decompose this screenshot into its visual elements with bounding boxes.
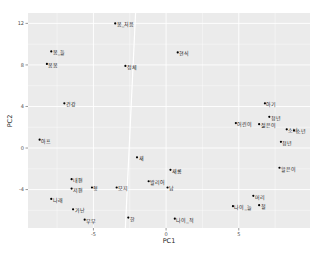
point-label: 저편	[73, 187, 83, 194]
point-label: 봄_들	[53, 49, 66, 56]
point-label: 젊은이	[261, 122, 276, 129]
data-point: 청년	[268, 115, 281, 121]
data-point: 나이_적	[174, 217, 194, 224]
point-label: 나이_늘	[234, 204, 252, 211]
point-label: 형	[93, 185, 98, 191]
scatter-plot: 봄_처음봄_들봄봄정체현식건강아프새내편저편형모지나래가난부부한새롬발리어남나이…	[0, 0, 324, 255]
data-point: 모지	[116, 185, 129, 192]
point-label: 아기	[266, 101, 276, 108]
data-point: 발리어	[148, 179, 166, 186]
y-tick-label: 8	[21, 62, 24, 68]
data-point: 부부	[84, 218, 97, 225]
data-point: 나래	[50, 197, 63, 204]
point-label: 가난	[75, 207, 85, 214]
data-point: 젊은이	[258, 122, 276, 129]
data-point: 아기	[264, 101, 277, 108]
data-point: 어린이	[235, 121, 253, 128]
data-point: 머리	[252, 194, 265, 201]
x-tick-label: 5	[237, 231, 240, 237]
data-point: 저편	[71, 187, 84, 194]
point-label: 아프	[41, 138, 51, 145]
data-point: 건강	[63, 101, 76, 107]
point-label: 현식	[179, 50, 189, 57]
point-label: 머리	[255, 194, 265, 201]
point-label: 내편	[73, 177, 83, 184]
point-label: 봄봄	[48, 62, 58, 68]
point-label: 나래	[53, 197, 63, 204]
data-point: 내편	[71, 177, 84, 184]
point-label: 어린이	[237, 121, 252, 128]
y-tick-label: 12	[18, 20, 24, 26]
point-label: 부부	[86, 218, 96, 225]
point-label: 소년	[296, 128, 306, 134]
point-label: 정체	[127, 64, 137, 71]
point-label: 남	[169, 185, 174, 191]
point-label: 청년	[282, 140, 292, 146]
data-point: 아프	[39, 138, 52, 145]
point-label: 나이_적	[176, 217, 194, 224]
data-point: 현식	[177, 50, 190, 57]
point-label: 새롬	[172, 168, 182, 175]
point-label: 봄_처음	[117, 21, 135, 28]
data-point: 봄_처음	[114, 21, 134, 28]
y-tick-label: 0	[21, 145, 24, 151]
point-label: 철	[261, 203, 266, 210]
point-label: 할은이	[281, 166, 296, 173]
y-axis-ticks: -404812	[18, 20, 28, 192]
y-tick-label: 4	[21, 103, 24, 109]
y-tick-label: -4	[19, 186, 24, 192]
plot-panel	[28, 13, 310, 228]
point-label: 건강	[66, 101, 76, 107]
x-axis-title: PC1	[163, 237, 176, 245]
data-point: 봄봄	[46, 62, 59, 68]
y-axis-title: PC2	[6, 115, 14, 128]
point-label: 청년	[271, 115, 281, 121]
point-label: 새	[139, 155, 144, 162]
point-label: 한	[130, 216, 135, 222]
data-point: 할은이	[278, 166, 296, 173]
data-point: 나이_늘	[232, 204, 252, 211]
data-point: 정체	[124, 64, 137, 71]
point-label: 모지	[118, 185, 128, 192]
point-label: 발리어	[150, 179, 165, 186]
data-point: 가난	[72, 207, 85, 214]
data-point: 청년	[280, 140, 293, 146]
data-point: 소년	[293, 128, 306, 134]
x-tick-label: -5	[91, 231, 96, 237]
data-point: 새롬	[169, 168, 182, 175]
data-point: 봄_들	[50, 49, 65, 56]
x-axis-ticks: -505	[91, 228, 240, 237]
